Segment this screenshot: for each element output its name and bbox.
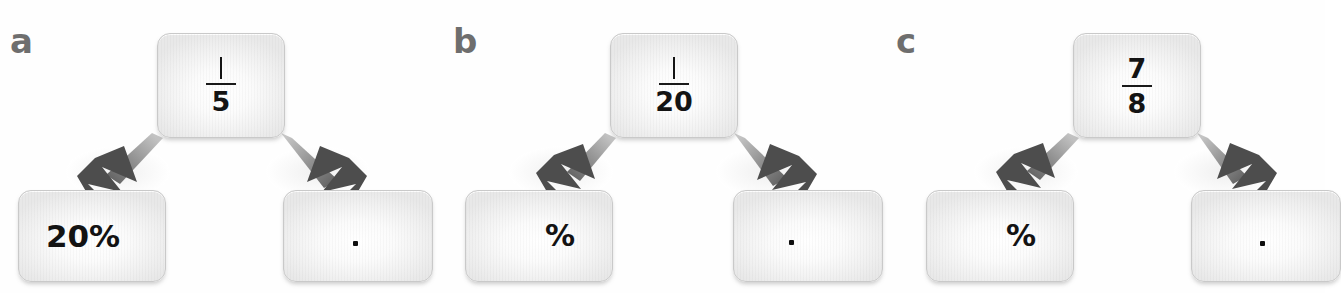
fraction-denominator-c: 8 (1128, 87, 1147, 117)
decimal-point-b (789, 240, 794, 245)
arrow-right-c (1197, 133, 1277, 197)
arrow-left-c (996, 133, 1079, 196)
percent-value-c: % (1006, 221, 1036, 251)
decimal-point-a (353, 241, 358, 246)
arrow-right-b (734, 133, 817, 198)
fraction-card-b[interactable]: 20 (610, 33, 738, 138)
fraction-a: 5 (206, 57, 236, 115)
percent-card-b[interactable]: % (465, 190, 613, 282)
fraction-b: 20 (655, 57, 693, 115)
percent-card-a[interactable]: 20% (18, 190, 166, 282)
decimal-card-b[interactable] (733, 190, 883, 282)
panel-label-b: b (453, 24, 477, 58)
percent-value-b: % (545, 221, 575, 251)
percent-card-c[interactable]: % (926, 190, 1074, 282)
panel-label-a: a (10, 24, 33, 58)
panel-label-c: c (896, 24, 916, 58)
decimal-point-c (1260, 241, 1265, 246)
fraction-card-c[interactable]: 7 8 (1073, 33, 1201, 138)
fraction-numerator-c: 7 (1128, 55, 1147, 85)
fraction-denominator-b: 20 (655, 85, 693, 115)
panel-a: a 5 20% (0, 0, 442, 293)
panel-c: c 7 8 % (886, 0, 1328, 293)
fraction-c: 7 8 (1122, 55, 1152, 117)
fraction-card-a[interactable]: 5 (157, 33, 285, 138)
fraction-numerator-a (220, 57, 222, 83)
decimal-card-c[interactable] (1191, 190, 1341, 282)
arrow-left-b (536, 133, 616, 197)
decimal-card-a[interactable] (283, 190, 433, 282)
fraction-denominator-a: 5 (212, 85, 231, 115)
fraction-numerator-b (673, 57, 675, 83)
panel-b: b 20 % (443, 0, 885, 293)
percent-value-a: 20% (46, 221, 120, 252)
